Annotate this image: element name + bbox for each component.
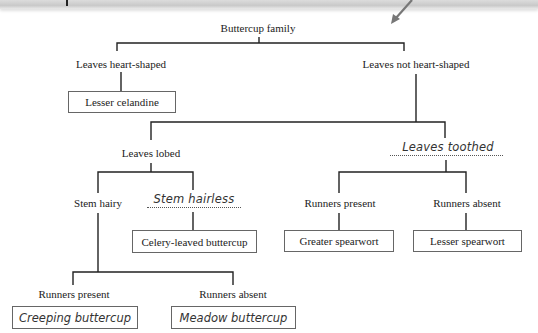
- result-meadow-buttercup: Meadow buttercup: [171, 306, 296, 329]
- stem-hairy-label: Stem hairy: [74, 197, 122, 209]
- toothed-runners-present-label: Runners present: [304, 197, 375, 209]
- result-lesser-spearwort: Lesser spearwort: [413, 230, 522, 252]
- leaves-toothed-label: Leaves toothed: [402, 140, 494, 154]
- result-creeping-buttercup: Creeping buttercup: [12, 306, 138, 329]
- leaves-lobed-label: Leaves lobed: [122, 147, 180, 159]
- hairy-runners-present-label: Runners present: [38, 288, 109, 300]
- root-label: Buttercup family: [221, 22, 296, 34]
- result-greater-spearwort: Greater spearwort: [284, 230, 394, 252]
- stem-hairless-underline: [147, 207, 241, 208]
- stem-hairless-label: Stem hairless: [154, 192, 235, 206]
- hairy-runners-absent-label: Runners absent: [199, 288, 267, 300]
- leaves-toothed-underline: [390, 155, 503, 156]
- leaves-heart-shaped-label: Leaves heart-shaped: [76, 58, 166, 70]
- toothed-runners-absent-label: Runners absent: [433, 197, 501, 209]
- connector-lines: [0, 0, 538, 333]
- pointer-arrow-icon: [391, 0, 412, 24]
- leaves-not-heart-shaped-label: Leaves not heart-shaped: [363, 58, 470, 70]
- result-celery-leaved-buttercup: Celery-leaved buttercup: [132, 230, 257, 253]
- result-lesser-celandine: Lesser celandine: [68, 91, 176, 113]
